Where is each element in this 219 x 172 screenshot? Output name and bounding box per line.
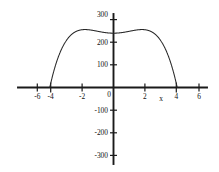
x-tick-label-zero: 0 <box>107 90 111 99</box>
x-tick-label-minus2: -2 <box>79 92 85 101</box>
x-tick-label-4: 4 <box>174 92 178 101</box>
x-tick-label-2: 2 <box>143 92 147 101</box>
y-tick-label-300: 300 <box>97 10 108 19</box>
y-tick-label-100: 100 <box>97 60 108 69</box>
x-tick-label-minus6: -6 <box>34 92 40 101</box>
y-tick-label-minus200: -200 <box>94 128 108 137</box>
x-axis-label: x <box>159 94 163 103</box>
y-tick-label-minus300: -300 <box>94 151 108 160</box>
y-tick-label-200: 200 <box>97 38 108 47</box>
y-tick-label-minus100: -100 <box>94 106 108 115</box>
function-plot: -6 -4 -2 0 2 4 6 300 200 100 -100 -200 -… <box>0 0 219 172</box>
x-tick-label-minus4: -4 <box>48 92 54 101</box>
chart-figure: -6 -4 -2 0 2 4 6 300 200 100 -100 -200 -… <box>0 0 219 172</box>
x-tick-label-6: 6 <box>197 92 201 101</box>
